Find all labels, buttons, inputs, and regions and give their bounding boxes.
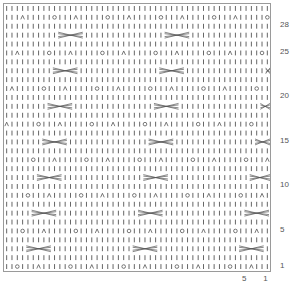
yarn-over-icon — [16, 265, 20, 269]
decrease-icon — [218, 122, 222, 126]
decrease-icon — [159, 158, 163, 162]
cable-cross-icon — [58, 32, 83, 38]
yarn-over-icon — [42, 87, 46, 91]
yarn-over-icon — [85, 158, 89, 162]
yarn-over-icon — [143, 122, 147, 126]
decrease-icon — [90, 265, 94, 269]
decrease-icon — [111, 122, 115, 126]
decrease-icon — [74, 15, 78, 19]
cable-cross-icon — [143, 175, 168, 181]
cable-cross-icon — [250, 175, 270, 181]
decrease-icon — [154, 193, 158, 197]
cable-cross-icon — [138, 210, 163, 216]
yarn-over-icon — [266, 16, 270, 20]
decrease-icon — [175, 51, 179, 55]
cable-cross-icon — [260, 103, 270, 109]
cable-cross-icon — [154, 103, 179, 109]
yarn-over-icon — [196, 122, 200, 126]
row-label: 20 — [280, 92, 289, 100]
yarn-over-icon — [212, 16, 216, 20]
yarn-over-icon — [191, 158, 195, 162]
row-label: 15 — [280, 137, 289, 145]
decrease-icon — [164, 122, 168, 126]
decrease-icon — [170, 87, 174, 91]
decrease-icon — [196, 265, 200, 269]
decrease-icon — [47, 193, 51, 197]
row-label: 1 — [280, 262, 284, 270]
yarn-over-icon — [239, 194, 243, 198]
row-label: 25 — [280, 48, 289, 56]
decrease-icon — [250, 265, 254, 269]
cable-cross-icon — [266, 68, 270, 74]
cable-cross-icon — [37, 175, 62, 181]
yarn-over-icon — [138, 158, 142, 162]
decrease-icon — [260, 193, 264, 197]
knitting-chart-grid — [3, 3, 271, 272]
yarn-over-icon — [106, 16, 110, 20]
decrease-icon — [42, 229, 46, 233]
decrease-icon — [255, 229, 259, 233]
yarn-over-icon — [37, 122, 41, 126]
decrease-icon — [95, 229, 99, 233]
decrease-icon — [202, 229, 206, 233]
decrease-icon — [266, 158, 270, 162]
decrease-icon — [223, 87, 227, 91]
column-label: 5 — [242, 275, 246, 283]
yarn-over-icon — [21, 229, 25, 233]
decrease-icon — [37, 265, 41, 269]
cable-cross-icon — [165, 32, 190, 38]
cable-cross-icon — [239, 246, 264, 252]
yarn-over-icon — [47, 51, 51, 55]
row-label: 5 — [280, 226, 284, 234]
cable-cross-icon — [48, 103, 73, 109]
yarn-over-icon — [31, 158, 35, 162]
decrease-icon — [106, 158, 110, 162]
yarn-over-icon — [255, 87, 259, 91]
yarn-over-icon — [69, 265, 73, 269]
yarn-over-icon — [175, 265, 179, 269]
yarn-over-icon — [250, 122, 254, 126]
yarn-over-icon — [207, 51, 211, 55]
yarn-over-icon — [202, 87, 206, 91]
decrease-icon — [212, 158, 216, 162]
decrease-icon — [101, 193, 105, 197]
cable-cross-icon — [53, 68, 78, 74]
yarn-over-icon — [74, 229, 78, 233]
yarn-over-icon — [149, 87, 153, 91]
yarn-over-icon — [234, 229, 238, 233]
yarn-over-icon — [95, 87, 99, 91]
decrease-icon — [149, 229, 153, 233]
row-label: 28 — [280, 21, 289, 29]
yarn-over-icon — [186, 194, 190, 198]
cable-cross-icon — [133, 246, 158, 252]
cable-cross-icon — [42, 139, 67, 145]
decrease-icon — [234, 15, 238, 19]
row-label: 10 — [280, 181, 289, 189]
yarn-over-icon — [53, 16, 57, 20]
decrease-icon — [143, 265, 147, 269]
yarn-over-icon — [244, 158, 248, 162]
cable-cross-icon — [149, 139, 174, 145]
decrease-icon — [117, 87, 121, 91]
yarn-over-icon — [228, 265, 232, 269]
yarn-over-icon — [122, 265, 126, 269]
yarn-over-icon — [79, 194, 83, 198]
yarn-over-icon — [101, 51, 105, 55]
cable-cross-icon — [26, 246, 51, 252]
yarn-over-icon — [260, 51, 264, 55]
column-label: 1 — [263, 275, 267, 283]
decrease-icon — [58, 122, 62, 126]
decrease-icon — [21, 15, 25, 19]
decrease-icon — [228, 51, 232, 55]
cable-cross-icon — [255, 139, 270, 145]
decrease-icon — [16, 51, 20, 55]
yarn-over-icon — [26, 194, 30, 198]
decrease-icon — [122, 51, 126, 55]
cable-cross-icon — [32, 210, 57, 216]
decrease-icon — [180, 15, 184, 19]
cable-cross-icon — [159, 68, 184, 74]
yarn-over-icon — [154, 51, 158, 55]
yarn-over-icon — [133, 194, 137, 198]
decrease-icon — [5, 122, 9, 126]
decrease-icon — [69, 51, 73, 55]
